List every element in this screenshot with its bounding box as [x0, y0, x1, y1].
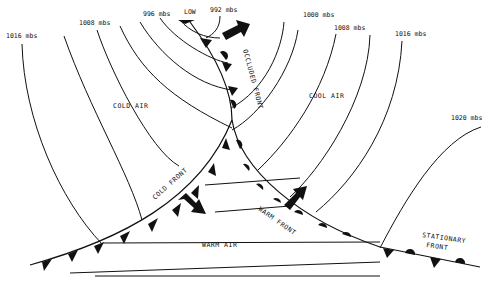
warm-isobar-2	[215, 206, 290, 212]
isobar-1008-right	[258, 34, 336, 170]
movement-arrows	[178, 20, 307, 214]
warm-air-label: WARM AIR	[202, 241, 237, 249]
arrow-occluded-icon	[222, 20, 250, 40]
warm-isobar-1	[205, 178, 300, 185]
isobar-label: 992 mbs	[210, 6, 237, 14]
isobar-inner-1	[160, 18, 228, 63]
cool-air-label: COOL AIR	[309, 92, 344, 100]
isobar-left-4	[120, 26, 232, 128]
isobar-1020	[380, 127, 481, 248]
occluded-front-label: OCCLUDED FRONT	[241, 48, 265, 110]
warm-isobar-3	[103, 242, 380, 243]
isobar-996	[140, 22, 232, 90]
isobar-label: 1016 mbs	[395, 30, 426, 38]
isobar-1016-left	[22, 44, 102, 244]
stationary-front	[380, 247, 480, 268]
isobar-1008-left	[97, 30, 179, 166]
isobar-left-2	[64, 36, 142, 220]
isobar-label: 1016 mbs	[6, 32, 37, 40]
warm-front-label: WARM FRONT	[257, 205, 298, 237]
isobar-label: 1008 mbs	[79, 19, 110, 27]
isobar-right-2	[232, 30, 298, 130]
isobar-992	[206, 16, 220, 38]
arrow-cold-front-icon	[178, 193, 206, 214]
low-pressure-label: LOW	[184, 8, 196, 16]
isobar-label: 996 mbs	[143, 10, 170, 18]
warm-isobar-4	[70, 262, 380, 273]
weather-front-diagram: 1016 mbs 1008 mbs 996 mbs LOW 992 mbs 10…	[0, 0, 494, 284]
stationary-front-label-2: FRONT	[426, 241, 449, 252]
isobar-1016-right	[316, 41, 402, 212]
cold-air-label: COLD AIR	[113, 102, 148, 110]
arrow-warm-front-icon	[284, 186, 307, 210]
warm-front	[232, 120, 380, 247]
isobar-label: 1020 mbs	[451, 114, 482, 122]
isobar-label: 1008 mbs	[334, 24, 365, 32]
air-mass-labels: COLD AIR COOL AIR WARM AIR	[113, 92, 344, 249]
isobar-label: 1000 mbs	[303, 11, 334, 19]
